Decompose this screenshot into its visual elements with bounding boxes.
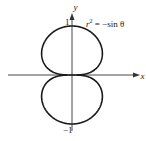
equation-label: r2 = −sin θ: [86, 18, 124, 29]
polar-plot: y x 1 −1 r2 = −sin θ: [0, 0, 146, 141]
tick-label-top: 1: [65, 17, 70, 27]
y-axis-arrow-icon: [70, 13, 75, 20]
x-axis-label: x: [140, 71, 145, 81]
svg-text:r2 = −sin θ: r2 = −sin θ: [86, 18, 124, 29]
equation-rest: = −sin θ: [93, 19, 125, 29]
tick-label-bottom: −1: [63, 125, 73, 135]
x-axis-arrow-icon: [133, 73, 140, 78]
y-axis-label: y: [73, 2, 78, 12]
